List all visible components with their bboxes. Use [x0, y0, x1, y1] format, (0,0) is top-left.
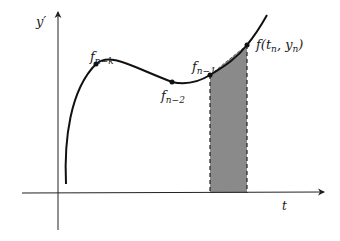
point-f-n-2	[170, 80, 175, 85]
x-axis-label: t	[282, 199, 287, 213]
label-f-n-k: fn−k	[89, 49, 114, 66]
x-axis	[22, 192, 324, 193]
label-f-n-1: fn−1	[191, 59, 216, 76]
label-f-tn-yn: f(tn, yn)	[255, 37, 303, 54]
label-f-n-2: fn−2	[160, 88, 185, 105]
y-axis-label: y′	[35, 14, 46, 29]
point-f-tn-yn	[245, 43, 250, 48]
diagram-canvas: y′ t fn−k fn−2 fn−1 f(tn, yn)	[0, 0, 340, 241]
